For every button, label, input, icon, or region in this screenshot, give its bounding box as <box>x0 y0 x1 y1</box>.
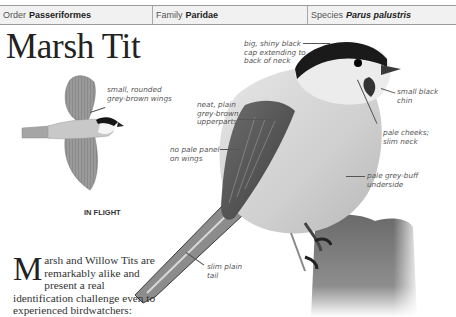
cap-annotation: big, shiny black cap extending to back o… <box>244 40 306 66</box>
upperparts-annotation: neat, plain grey-brown upperparts <box>197 101 239 127</box>
wing-panel-leader <box>220 149 240 150</box>
flight-caption: IN FLIGHT <box>84 208 121 217</box>
order-label: Order <box>3 10 26 20</box>
family-label: Family <box>156 10 183 20</box>
underside-leader <box>346 176 365 177</box>
underside-annotation: pale grey-buff underside <box>367 172 418 189</box>
chin-annotation: small black chin <box>397 88 438 105</box>
order-cell: Order Passeriformes <box>0 6 152 24</box>
intro-dropcap: M <box>13 256 42 282</box>
taxonomy-header-bar: Order Passeriformes Family Paridae Speci… <box>0 5 456 25</box>
order-value: Passeriformes <box>29 10 91 20</box>
cap-leader <box>303 43 330 44</box>
wing-panel-annotation: no pale panel on wings <box>170 146 220 163</box>
family-cell: Family Paridae <box>152 6 307 24</box>
intro-paragraph: Marsh and Willow Tits are remarkably ali… <box>13 254 163 317</box>
upperparts-leader <box>238 119 273 120</box>
family-value: Paridae <box>186 10 219 20</box>
cheeks-annotation: pale cheeks; slim neck <box>383 129 429 146</box>
species-label: Species <box>311 10 343 20</box>
tail-annotation: slim plain tail <box>207 263 242 280</box>
species-cell: Species Parus palustris <box>307 6 456 24</box>
species-value: Parus palustris <box>346 10 411 20</box>
page-title: Marsh Tit <box>6 28 140 66</box>
